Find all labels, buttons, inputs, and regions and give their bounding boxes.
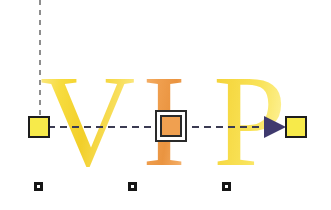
gradient-center-handle[interactable]	[155, 110, 187, 142]
baseline-anchor-3[interactable]	[222, 182, 231, 191]
baseline-anchor-1[interactable]	[34, 182, 43, 191]
gradient-edit-canvas[interactable]: V I P	[0, 0, 331, 210]
gradient-center-handle-fill	[160, 115, 182, 137]
gradient-direction-arrow[interactable]	[263, 114, 287, 140]
overlay-guides	[0, 0, 331, 210]
baseline-anchor-2[interactable]	[128, 182, 137, 191]
gradient-end-handle[interactable]	[285, 116, 307, 138]
gradient-start-handle[interactable]	[28, 116, 50, 138]
